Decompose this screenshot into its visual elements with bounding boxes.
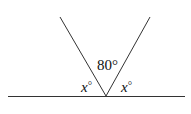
top-angle-label: 80°	[97, 57, 118, 73]
angle-diagram: 80° x° x°	[0, 0, 191, 114]
left-angle-label: x°	[80, 79, 92, 95]
right-angle-label: x°	[120, 79, 132, 95]
